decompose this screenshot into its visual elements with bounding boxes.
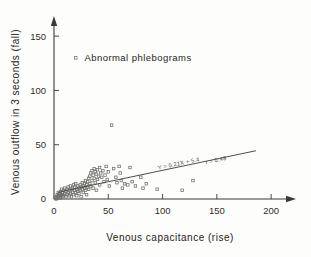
annotation-marker-icon (74, 57, 77, 60)
data-point (118, 165, 121, 168)
data-point (93, 167, 96, 170)
data-point (80, 196, 83, 199)
data-point (107, 171, 110, 174)
data-point (84, 189, 87, 192)
figure-container: 050100150050100150200Y = 0.21X + 5.4r = … (0, 0, 311, 257)
data-point (134, 185, 137, 188)
data-point (108, 185, 111, 188)
data-point (123, 183, 126, 186)
scatter-plot: 050100150050100150200Y = 0.21X + 5.4r = … (0, 0, 311, 257)
data-point (156, 188, 159, 191)
data-point (181, 189, 184, 192)
regression-line (58, 151, 256, 193)
x-tick-label: 0 (51, 205, 56, 216)
data-point (93, 177, 96, 180)
data-point (116, 181, 119, 184)
x-tick-label: 200 (263, 205, 279, 216)
correlation-label: r = 0.48 (205, 155, 227, 165)
data-point (140, 176, 143, 179)
data-point (95, 189, 98, 192)
data-point (92, 174, 95, 177)
data-point (104, 174, 107, 177)
data-point (106, 178, 109, 181)
annotation-label: Abnormal phlebograms (84, 52, 191, 63)
x-axis-title: Venous capacitance (rise) (106, 232, 234, 243)
data-point (98, 166, 101, 169)
data-point (105, 165, 108, 168)
data-point (192, 179, 195, 182)
data-point (89, 175, 92, 178)
x-tick-label: 150 (209, 205, 225, 216)
data-point (131, 180, 134, 183)
x-tick-label: 100 (155, 205, 171, 216)
data-point (96, 178, 99, 181)
data-point (112, 167, 115, 170)
data-point (85, 193, 88, 196)
data-point (129, 166, 132, 169)
data-point (97, 175, 100, 178)
x-tick-label: 50 (103, 205, 114, 216)
x-axis-arrow-icon (286, 196, 296, 202)
data-point (92, 187, 95, 190)
y-tick-label: 0 (41, 193, 46, 204)
data-point (78, 192, 81, 195)
data-point (121, 187, 124, 190)
data-point (127, 184, 130, 187)
y-axis-arrow-icon (51, 16, 57, 26)
y-tick-label: 50 (35, 139, 46, 150)
y-axis-title: Venous outflow in 3 seconds (fall) (10, 29, 21, 195)
data-point (102, 170, 105, 173)
y-tick-label: 150 (30, 31, 46, 42)
data-point (94, 181, 97, 184)
data-point (115, 176, 118, 179)
data-point (110, 124, 113, 127)
data-point (145, 183, 148, 186)
data-point (87, 188, 90, 191)
data-point (142, 187, 145, 190)
data-point (119, 172, 122, 175)
y-tick-label: 100 (30, 85, 46, 96)
data-point (101, 176, 104, 179)
